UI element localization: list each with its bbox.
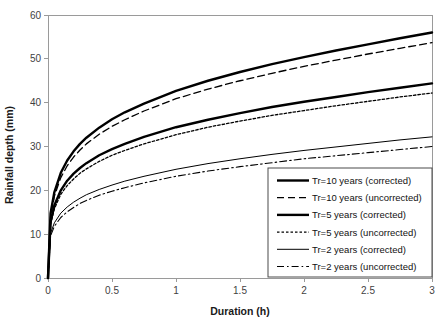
x-tick-label: 1.5 (233, 285, 247, 296)
x-axis-title: Duration (h) (210, 305, 270, 317)
legend-label-2: Tr=5 years (corrected) (312, 209, 406, 220)
x-tick-label: 1 (173, 285, 179, 296)
x-tick-label: 3 (429, 285, 435, 296)
x-tick-label: 2 (301, 285, 307, 296)
chart-legend: Tr=10 years (corrected)Tr=10 years (unco… (268, 168, 432, 277)
x-tick-label: 0 (45, 285, 51, 296)
legend-label-1: Tr=10 years (uncorrected) (312, 192, 422, 203)
y-tick-label: 40 (30, 97, 42, 108)
y-tick-label: 10 (30, 229, 42, 240)
x-tick-label: 2.5 (361, 285, 375, 296)
y-axis-title: Rainfall depth (mm) (3, 106, 15, 204)
legend-label-0: Tr=10 years (corrected) (312, 175, 411, 186)
y-tick-label: 0 (35, 273, 41, 284)
y-tick-label: 60 (30, 10, 42, 21)
y-tick-label: 20 (30, 185, 42, 196)
rainfall-depth-duration-chart: 0102030405060 00.511.522.53 Duration (h)… (0, 0, 439, 322)
y-tick-label: 50 (30, 53, 42, 64)
chart-container: 0102030405060 00.511.522.53 Duration (h)… (0, 0, 439, 322)
legend-label-3: Tr=5 years (uncorrected) (312, 227, 416, 238)
legend-label-4: Tr=2 years (corrected) (312, 244, 406, 255)
legend-label-5: Tr=2 years (uncorrected) (312, 261, 416, 272)
y-tick-label: 30 (30, 141, 42, 152)
x-tick-label: 0.5 (105, 285, 119, 296)
